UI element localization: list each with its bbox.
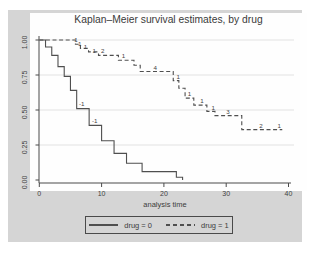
- y-tick-label: 0.25: [21, 141, 28, 155]
- x-tick-label: 10: [98, 190, 106, 197]
- lost-count-label: 1: [177, 73, 181, 80]
- x-tick-label: 20: [160, 190, 168, 197]
- y-tick-label: 0.75: [21, 71, 28, 85]
- page: Kaplan–Meier survival estimates, by drug…: [0, 0, 314, 253]
- lost-count-label: 1: [92, 47, 96, 54]
- lost-count-label: -1: [79, 100, 85, 107]
- y-tick-label: 0.50: [21, 106, 28, 120]
- lost-count-label: 1: [200, 97, 204, 104]
- y-tick-label: 1.00: [21, 36, 28, 50]
- lost-count-label: -1: [92, 117, 98, 124]
- y-tick-label: 0.00: [21, 176, 28, 190]
- lost-count-label: 1: [211, 104, 215, 111]
- lost-count-label: 1: [78, 40, 82, 47]
- lost-count-label: 3: [226, 108, 230, 115]
- km-curve-drug1: [39, 40, 282, 130]
- lost-count-label: 1: [122, 52, 126, 59]
- lost-count-label: 1: [188, 90, 192, 97]
- x-tick-label: 0: [37, 190, 41, 197]
- lost-count-label: 1: [84, 43, 88, 50]
- lost-count-label: 2: [259, 122, 263, 129]
- lost-count-label: 1: [277, 122, 281, 129]
- lost-count-label: 2: [101, 47, 105, 54]
- x-tick-label: 40: [285, 190, 293, 197]
- lost-count-label: 4: [153, 64, 157, 71]
- km-chart: 0.000.250.500.751.00010203040-1-11111214…: [0, 0, 314, 253]
- x-tick-label: 30: [222, 190, 230, 197]
